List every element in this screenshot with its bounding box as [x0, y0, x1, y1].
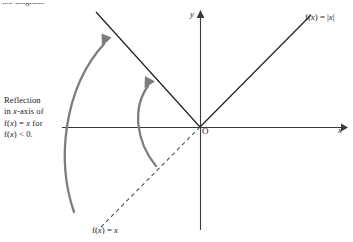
identity-dashed-line: [99, 127, 200, 229]
reflection-caption: Reflection in x-axis of f(x) = x for f(x…: [4, 95, 66, 141]
y-axis: [197, 10, 205, 230]
identity-function-label: f(x) = x: [92, 225, 118, 235]
caption-line-3: f(x) = x for: [4, 118, 66, 129]
caption-line-2: in x-axis of: [4, 106, 66, 117]
caption-line-4: f(x) < 0.: [4, 129, 66, 140]
y-axis-label: y: [190, 9, 194, 19]
inner-reflection-arrow: [138, 76, 156, 166]
abs-right-branch: [200, 15, 311, 127]
outer-reflection-arrow: [65, 34, 112, 213]
origin-label: O: [202, 126, 209, 136]
y-axis-arrowhead: [197, 10, 205, 18]
figure-canvas: the diagram. Reflection: [0, 0, 353, 242]
abs-left-branch: [96, 12, 200, 127]
caption-line-1: Reflection: [4, 95, 66, 106]
x-axis-label: x: [338, 125, 342, 135]
x-axis-arrowhead: [341, 124, 348, 132]
abs-function-label: f(x) = |x|: [305, 12, 335, 22]
